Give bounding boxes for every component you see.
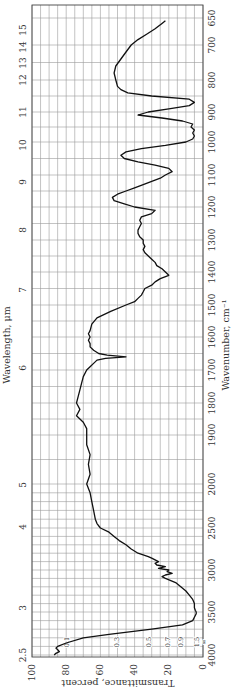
wavelength-tick: 14 [18,41,28,53]
wavenumber-tick: 1600 [207,325,217,348]
wavenumber-tick: 1900 [207,423,217,446]
transmittance-gridlines [32,5,203,657]
wavenumber-tick: 1500 [207,293,217,316]
wavenumber-tick: 900 [207,103,217,120]
wavelength-tick: 8 [18,227,28,233]
wavelength-tick-labels: 2.53456789101112131415 [18,24,28,662]
wavenumber-tick: 1700 [207,358,217,381]
transmittance-tick: 20 [163,664,173,676]
wavenumber-tick: 1300 [207,228,217,251]
wavenumber-tick-labels: 6507008009001000110012001300140015001600… [207,9,217,666]
wavenumber-tick: 1100 [207,163,217,186]
wavelength-axis-title: Wavelength, μm [1,306,12,384]
wavelength-tick: 9 [18,179,28,185]
wavelength-tick: 5 [18,482,28,488]
wavelength-tick: 10 [18,139,28,151]
absorbance-label: 0.3 [113,637,121,647]
absorbance-label: 0.7 [164,637,172,647]
wavenumber-tick: 1400 [207,260,217,283]
wavelength-tick: 3 [18,605,28,611]
transmittance-tick: 80 [61,664,71,676]
transmittance-tick: 100 [27,664,37,681]
wavelength-tick: 11 [18,106,28,117]
wavenumber-tick: 3000 [207,558,217,581]
wavelength-tick: 7 [18,287,28,293]
wavenumber-tick: 1000 [207,130,217,153]
spectrum-curve [54,21,196,655]
wavenumber-tick: 1800 [207,391,217,414]
transmittance-axis-title: Transmittance, percent [61,678,174,689]
wavenumber-tick: 800 [207,71,217,88]
ir-spectrum-chart: 0.10.30.50.70.91.5∞ 100806040200 6507008… [0,0,239,693]
wavelength-tick: 12 [18,74,28,85]
wavenumber-tick: 650 [207,9,217,26]
wavenumber-tick: 2500 [207,516,217,539]
wavelength-tick: 2.5 [18,648,28,663]
absorbance-label: 0.9 [177,637,185,647]
wavenumber-tick: 4000 [207,643,217,666]
wavelength-tick: 4 [18,524,28,530]
wavelength-tick: 15 [18,24,28,36]
wavenumber-tick: 700 [207,36,217,53]
wavelength-tick: 13 [18,57,28,69]
wavenumber-tick: 3500 [207,600,217,623]
absorbance-label: 0.5 [145,637,153,647]
transmittance-tick: 40 [129,664,139,676]
wavelength-tick: 6 [18,365,28,371]
wavenumber-tick: 1200 [207,195,217,218]
wavenumber-axis-title: Wavenumber, cm⁻¹ [220,299,231,390]
transmittance-tick: 60 [95,664,105,676]
wavenumber-tick: 2000 [207,472,217,495]
